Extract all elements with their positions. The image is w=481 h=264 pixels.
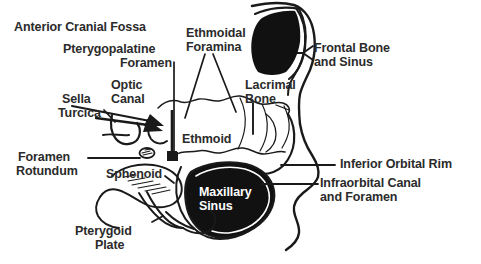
label-frontal-bone-and-sinus-line2: and Sinus [314, 56, 373, 70]
label-ethmoid: Ethmoid [182, 133, 231, 147]
label-lacrimal-bone-line1: Lacrimal [245, 79, 296, 93]
label-lacrimal-bone-line2: Bone [245, 93, 276, 107]
label-sella-turcica-line1: Sella [62, 93, 91, 107]
label-frontal-bone-and-sinus-line1: Frontal Bone [314, 42, 390, 56]
label-ethmoidal-foramina-line2: Foramina [186, 41, 241, 55]
label-infraorbital-canal-line1: Infraorbital Canal [320, 177, 421, 191]
leader-ethmoid-endpoint [167, 151, 177, 161]
leader-ethmoidal-foramina-b [213, 54, 236, 112]
label-optic-canal-line1: Optic [111, 79, 142, 93]
label-pterygoid-plate-line2: Plate [95, 239, 124, 253]
label-maxillary-sinus-line1: Maxillary [199, 186, 252, 200]
label-optic-canal-line2: Canal [111, 93, 145, 107]
label-pterygoid-plate-line1: Pterygoid [75, 225, 132, 239]
ethmoid-cell-detail-2 [260, 104, 267, 151]
leader-sphenoid [165, 176, 174, 183]
label-inferior-orbital-rim: Inferior Orbital Rim [340, 158, 452, 172]
label-sphenoid: Sphenoid [106, 168, 162, 182]
anatomy-diagram-figure: Anterior Cranial Fossa Pterygopalatine F… [0, 0, 481, 264]
label-ethmoidal-foramina-line1: Ethmoidal [186, 27, 246, 41]
label-pterygopalatine-foramen-line1: Pterygopalatine [63, 43, 155, 57]
label-maxillary-sinus-line2: Sinus [199, 200, 233, 214]
nasal-facial-profile [286, 124, 319, 250]
label-foramen-rotundum-line2: Rotundum [16, 165, 78, 179]
label-foramen-rotundum-line1: Foramen [18, 151, 70, 165]
label-pterygopalatine-foramen-line2: Foramen [63, 57, 172, 71]
label-anterior-cranial-fossa: Anterior Cranial Fossa [14, 21, 146, 35]
frontal-sinus-fill [251, 11, 300, 75]
anterior-cranial-fossa-floor [103, 134, 129, 135]
sella-turcica-contour [111, 115, 140, 144]
ethmoid-inferior-border [175, 148, 285, 155]
leader-ethmoidal-foramina-a [185, 54, 205, 118]
foramen-rotundum-texture [142, 149, 152, 155]
label-sella-turcica-line2: Turcica [58, 107, 101, 121]
label-infraorbital-canal-line2: and Foramen [320, 191, 397, 205]
